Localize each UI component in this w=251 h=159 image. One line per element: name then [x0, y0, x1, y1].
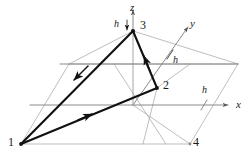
node-label-3: 3: [140, 19, 146, 31]
node-label-1: 1: [8, 136, 14, 148]
figure-canvas: [0, 0, 251, 159]
dimension-label-h-x: h: [202, 85, 207, 95]
bold-edge-3-1: [21, 31, 133, 144]
axis-label-y: y: [190, 18, 195, 29]
arrow-edge-2-3: [144, 56, 150, 71]
dimension-ticks: [127, 20, 173, 59]
base-edge-4-backright: [190, 64, 238, 144]
edge-direction-arrows: [74, 56, 150, 120]
node-dot-2: [155, 86, 159, 90]
axis-label-x: x: [236, 99, 241, 110]
gray-edge-2-backright: [157, 64, 190, 88]
node-dot-3: [131, 29, 135, 33]
y-axis-line: [133, 27, 188, 105]
node-label-4: 4: [193, 136, 199, 148]
gray-edge-3-backright: [133, 31, 238, 64]
dimension-label-h-z: h: [114, 19, 119, 29]
node-dot-1: [19, 142, 23, 146]
geometry-figure: 1 2 3 4 x y z h h h: [0, 0, 251, 159]
diagonal-3proj-to-4: [133, 105, 190, 144]
bold-triangle: [21, 31, 157, 144]
node-label-2: 2: [163, 79, 169, 91]
axis-label-z: z: [130, 2, 134, 13]
diagonal-backleft-to-4: [114, 64, 166, 144]
arrow-edge-1-2: [78, 114, 92, 120]
gray-edge-backleft-3: [69, 31, 133, 64]
gray-edge-2-down: [143, 88, 157, 144]
dimension-label-h-y: h: [173, 55, 178, 65]
node-dot-4: [189, 143, 192, 146]
